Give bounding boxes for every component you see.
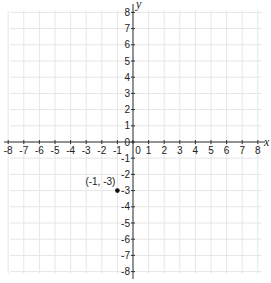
y-tick-label: -8 — [121, 266, 130, 277]
y-tick-label: -7 — [121, 250, 130, 261]
y-tick-label: 4 — [124, 72, 130, 83]
x-tick-label: 0 — [135, 145, 141, 156]
x-tick-label: 5 — [208, 145, 214, 156]
y-tick-label: 5 — [124, 56, 130, 67]
y-tick-label: 0 — [124, 137, 130, 148]
y-tick-label: -2 — [121, 169, 130, 180]
y-tick-label: 3 — [124, 88, 130, 99]
x-tick-label: 8 — [255, 145, 261, 156]
x-tick-label: 2 — [161, 145, 167, 156]
x-axis-label: x — [263, 135, 270, 149]
y-tick-label: -3 — [121, 185, 130, 196]
x-tick-label: -6 — [35, 145, 44, 156]
y-axis-label: y — [135, 0, 142, 11]
x-tick-label: -3 — [82, 145, 91, 156]
y-tick-label: 2 — [124, 104, 130, 115]
y-tick-label: 7 — [124, 23, 130, 34]
coordinate-plane: -8-7-6-5-4-3-2-1012345678876543210-1-2-3… — [0, 0, 271, 283]
y-tick-label: -5 — [121, 218, 130, 229]
x-tick-label: 6 — [224, 145, 230, 156]
x-tick-label: -8 — [4, 145, 13, 156]
y-tick-label: -1 — [121, 153, 130, 164]
x-tick-label: -2 — [97, 145, 106, 156]
y-tick-label: 1 — [124, 120, 130, 131]
point-label: (-1, -3) — [85, 176, 115, 187]
x-tick-label: -7 — [19, 145, 28, 156]
y-tick-label: 6 — [124, 39, 130, 50]
x-tick-label: 3 — [177, 145, 183, 156]
x-tick-label: -5 — [51, 145, 60, 156]
data-point — [115, 188, 120, 193]
x-tick-label: 1 — [146, 145, 152, 156]
y-tick-label: -4 — [121, 201, 130, 212]
x-tick-label: 4 — [193, 145, 199, 156]
y-tick-label: 8 — [124, 7, 130, 18]
x-tick-label: -4 — [66, 145, 75, 156]
x-tick-label: 7 — [239, 145, 245, 156]
y-tick-label: -6 — [121, 234, 130, 245]
